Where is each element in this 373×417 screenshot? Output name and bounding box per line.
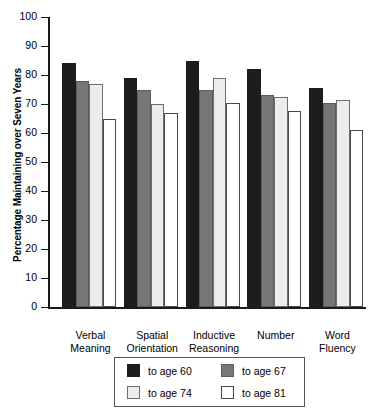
- legend-swatch-icon: [221, 364, 234, 377]
- bar: [124, 78, 138, 307]
- category-label-line: Reasoning: [168, 342, 261, 355]
- legend-swatch-icon: [221, 386, 234, 399]
- x-axis-line: [48, 307, 366, 309]
- y-tick-label: 100: [7, 10, 37, 22]
- legend-item[interactable]: to age 67: [221, 364, 286, 377]
- legend-label: to age 74: [148, 387, 192, 399]
- y-tick-90: 90: [41, 46, 48, 47]
- bar: [199, 90, 213, 308]
- bar-group: [124, 17, 181, 307]
- bar: [62, 63, 76, 307]
- legend-item[interactable]: to age 74: [127, 386, 192, 399]
- bar: [103, 119, 117, 308]
- bar: [89, 84, 103, 307]
- bar: [309, 88, 323, 307]
- legend-item[interactable]: to age 60: [127, 364, 192, 377]
- y-tick-100: 100: [41, 17, 48, 18]
- bar: [288, 111, 302, 307]
- bar: [323, 103, 337, 307]
- bar-group: [309, 17, 366, 307]
- y-tick-label: 80: [7, 68, 37, 80]
- y-tick-60: 60: [41, 133, 48, 134]
- legend-swatch-icon: [127, 386, 140, 399]
- legend-label: to age 60: [148, 365, 192, 377]
- chart-legend: to age 60to age 67to age 74to age 81: [114, 357, 305, 407]
- y-tick-label: 90: [7, 39, 37, 51]
- y-tick-40: 40: [41, 191, 48, 192]
- bar: [213, 78, 227, 307]
- bar: [336, 100, 350, 307]
- bar: [261, 95, 275, 307]
- legend-label: to age 81: [242, 387, 286, 399]
- bar-chart-figure: Percentage Maintaining over Seven Years …: [0, 0, 373, 417]
- category-label-line: Word: [291, 329, 373, 342]
- y-tick-20: 20: [41, 249, 48, 250]
- category-label-line: Fluency: [291, 342, 373, 355]
- y-axis-line: [48, 17, 50, 308]
- bar: [186, 61, 200, 308]
- y-tick-30: 30: [41, 220, 48, 221]
- plot-area: 0102030405060708090100 VerbalMeaningSpat…: [48, 17, 366, 307]
- legend-swatch-icon: [127, 364, 140, 377]
- y-tick-label: 10: [7, 271, 37, 283]
- y-tick-label: 0: [7, 300, 37, 312]
- bar: [247, 69, 261, 307]
- bar: [76, 81, 90, 307]
- category-label: WordFluency: [291, 329, 373, 355]
- y-tick-label: 50: [7, 155, 37, 167]
- y-tick-70: 70: [41, 104, 48, 105]
- bar: [164, 113, 178, 307]
- bar: [151, 104, 165, 307]
- bar: [350, 130, 364, 307]
- y-tick-label: 30: [7, 213, 37, 225]
- y-tick-50: 50: [41, 162, 48, 163]
- bar-group: [62, 17, 119, 307]
- y-tick-0: 0: [41, 307, 48, 308]
- bar: [226, 103, 240, 307]
- y-tick-10: 10: [41, 278, 48, 279]
- bar: [274, 97, 288, 307]
- y-tick-label: 60: [7, 126, 37, 138]
- y-tick-label: 40: [7, 184, 37, 196]
- bar: [137, 90, 151, 308]
- legend-label: to age 67: [242, 365, 286, 377]
- legend-item[interactable]: to age 81: [221, 386, 286, 399]
- bar-group: [247, 17, 304, 307]
- y-tick-label: 20: [7, 242, 37, 254]
- bar-group: [186, 17, 243, 307]
- y-tick-80: 80: [41, 75, 48, 76]
- y-tick-label: 70: [7, 97, 37, 109]
